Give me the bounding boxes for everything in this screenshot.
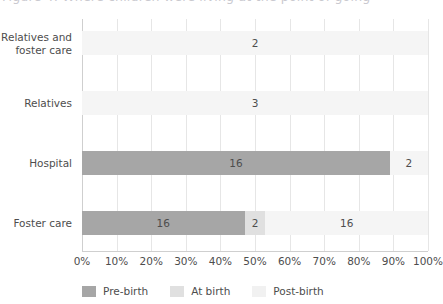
y-axis-label-line: Relatives	[0, 97, 72, 110]
bar-segment: 16	[82, 211, 245, 235]
stacked-bar-chart: 2316216216 Relatives andfoster careRelat…	[0, 0, 443, 304]
legend-item[interactable]: At birth	[170, 285, 230, 297]
bar-row: 2	[82, 31, 428, 55]
legend-label: Pre-birth	[103, 285, 148, 297]
legend-swatch-icon	[170, 286, 184, 297]
y-axis-label: Relatives	[0, 97, 72, 110]
legend-swatch-icon	[82, 286, 96, 297]
bar-segment: 2	[82, 31, 428, 55]
y-axis-label-line: Relatives and	[0, 31, 72, 44]
bar-row: 162	[82, 151, 428, 175]
legend-item[interactable]: Post-birth	[252, 285, 323, 297]
x-tick-label: 100%	[408, 255, 443, 267]
y-axis-label-line: foster care	[0, 44, 72, 57]
legend-swatch-icon	[252, 286, 266, 297]
bar-segment: 16	[82, 151, 390, 175]
chart-legend: Pre-birthAt birthPost-birth	[82, 283, 346, 299]
x-axis-line	[82, 251, 428, 252]
plot-area: 2316216216	[82, 19, 428, 251]
legend-item[interactable]: Pre-birth	[82, 285, 148, 297]
bar-segment: 2	[390, 151, 428, 175]
legend-label: Post-birth	[273, 285, 323, 297]
gridline-100	[428, 19, 429, 251]
bar-segment: 2	[245, 211, 266, 235]
bar-segment: 16	[265, 211, 428, 235]
bar-row: 3	[82, 91, 428, 115]
y-axis-label-line: Foster care	[0, 217, 72, 230]
bar-segment: 3	[82, 91, 428, 115]
legend-label: At birth	[191, 285, 230, 297]
y-axis-label: Relatives andfoster care	[0, 31, 72, 56]
y-axis-label: Foster care	[0, 217, 72, 230]
bar-row: 16216	[82, 211, 428, 235]
y-axis-label: Hospital	[0, 157, 72, 170]
y-axis-label-line: Hospital	[0, 157, 72, 170]
